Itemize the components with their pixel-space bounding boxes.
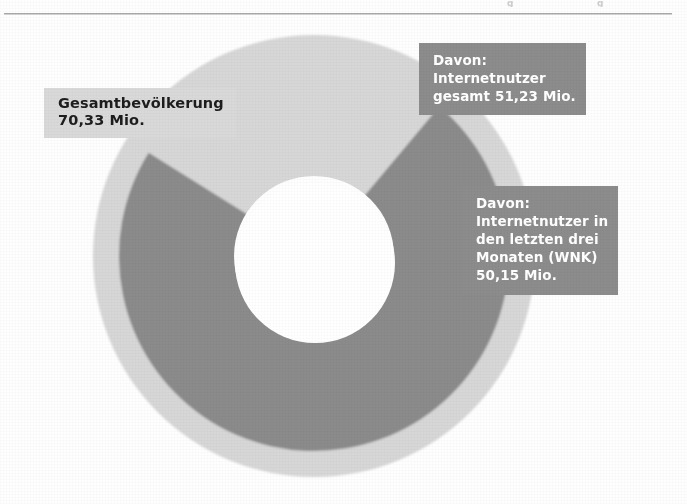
label-internetnutzer-wnk: Davon: Internetnutzer in den letzten dre… bbox=[462, 186, 618, 295]
label-internetnutzer-gesamt: Davon: Internetnutzer gesamt 51,23 Mio. bbox=[419, 43, 586, 115]
infographic-page: g g Gesamtbevölkerung 70,33 Mio. Davo bbox=[0, 0, 687, 504]
label-gesamtbevoelkerung: Gesamtbevölkerung 70,33 Mio. bbox=[44, 88, 236, 138]
donut-center-hole bbox=[235, 183, 395, 343]
